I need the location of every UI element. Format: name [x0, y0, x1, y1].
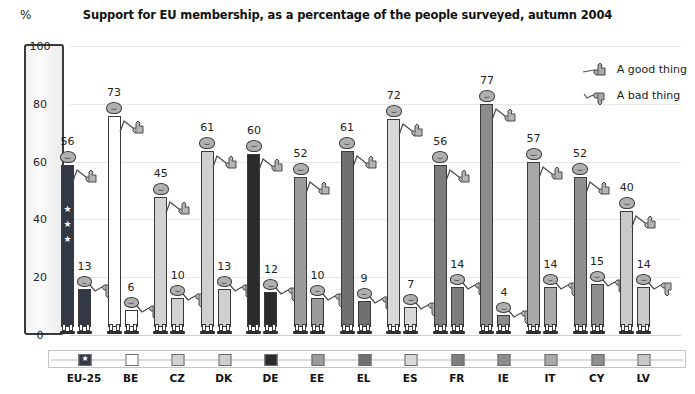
value-label: 72 [387, 89, 401, 102]
figure-head [339, 137, 355, 149]
bad-thing-figure: 14 [544, 272, 557, 334]
figure-leg [359, 324, 363, 331]
figure-foot [346, 331, 355, 334]
value-label: 73 [107, 86, 121, 99]
value-label: 12 [264, 263, 278, 276]
category-label-DK: DK [215, 372, 232, 384]
value-label: 9 [361, 272, 368, 285]
good-thing-figure: 40 [620, 195, 633, 334]
figure-foot [66, 331, 75, 334]
thumbs-up-icon [305, 179, 335, 203]
category-label-EU-25: EU-25 [67, 372, 102, 384]
figure-head [293, 163, 309, 175]
thumbs-up-icon [119, 118, 149, 142]
figure-head [526, 148, 542, 160]
good-thing-figure: 61 [341, 135, 354, 334]
legend-swatch-LV [638, 354, 651, 366]
bar-body [108, 116, 121, 327]
bar-body [247, 154, 260, 327]
figure-leg [265, 324, 269, 331]
figure-leg [435, 324, 439, 331]
chart-title: Support for EU membership, as a percenta… [0, 8, 695, 22]
figure-leg [133, 324, 137, 331]
good-thing-figure: 57 [527, 146, 540, 334]
legend-item-bad[interactable]: A bad thing [581, 82, 687, 108]
figure-head [636, 274, 651, 285]
value-label: 7 [407, 278, 414, 291]
figure-foot [269, 331, 278, 334]
category-label-FR: FR [449, 372, 464, 384]
figure-head [170, 285, 185, 296]
bad-thing-figure: 13 [218, 274, 231, 334]
thumbs-up-icon [538, 164, 568, 188]
thumbs-down-icon [581, 85, 611, 105]
figure-leg [645, 324, 649, 331]
figure-head [619, 197, 635, 209]
figure-leg [592, 324, 596, 331]
value-label: 56 [433, 135, 447, 148]
thumbs-up-icon [212, 153, 242, 177]
bad-thing-figure: 15 [591, 269, 604, 334]
bad-thing-figure: 13 [78, 274, 91, 334]
bad-thing-figure: 6 [125, 295, 138, 334]
thumbs-up-icon [445, 167, 475, 191]
figure-foot [625, 331, 634, 334]
figure-leg [395, 324, 399, 331]
category-label-LV: LV [637, 372, 650, 384]
figure-foot [579, 331, 588, 334]
figure-leg [481, 324, 485, 331]
figure-leg [505, 324, 509, 331]
bad-thing-figure: 10 [311, 283, 324, 334]
bar-body [171, 298, 184, 327]
value-label: 77 [480, 74, 494, 87]
value-label: 14 [450, 258, 464, 271]
thumbs-up-icon [585, 179, 615, 203]
bar-body [637, 287, 650, 327]
figure-leg [498, 324, 502, 331]
bad-thing-figure: 12 [264, 277, 277, 334]
category-label-DE: DE [262, 372, 278, 384]
y-tick-60: 60 [18, 155, 62, 168]
thumbs-up-icon [352, 153, 382, 177]
figure-foot [392, 331, 401, 334]
eu-stars: ★★★ [62, 166, 73, 247]
legend-item-good[interactable]: A good thing [581, 56, 687, 82]
figure-leg [412, 324, 416, 331]
legend-swatch-EL [358, 354, 371, 366]
figure-leg [219, 324, 223, 331]
good-thing-figure: ★★★56 [61, 149, 74, 334]
bar-body [78, 289, 91, 327]
category-label-EE: EE [310, 372, 324, 384]
figure-head [246, 140, 262, 152]
figure-foot [130, 331, 139, 334]
value-label: 14 [544, 258, 558, 271]
figure-leg [126, 324, 130, 331]
good-thing-figure: 52 [574, 161, 587, 334]
bar-body [527, 162, 540, 327]
figure-head [106, 102, 122, 114]
figure-head [124, 297, 139, 308]
figure-foot [159, 331, 168, 334]
figure-leg [599, 324, 603, 331]
figure-head [60, 151, 76, 163]
figure-foot [206, 331, 215, 334]
figure-leg [69, 324, 73, 331]
category-label-IE: IE [498, 372, 509, 384]
legend-swatch-DK [218, 354, 231, 366]
figure-foot [439, 331, 448, 334]
value-label: 60 [247, 124, 261, 137]
figure-head [77, 276, 92, 287]
figure-leg [545, 324, 549, 331]
figure-foot [299, 331, 308, 334]
figure-leg [116, 324, 120, 331]
y-tick-40: 40 [18, 213, 62, 226]
figure-leg [405, 324, 409, 331]
legend-swatch-CY [591, 354, 604, 366]
bar-body [264, 292, 277, 327]
figure-head [217, 276, 232, 287]
value-label: 13 [217, 260, 231, 273]
figure-leg [312, 324, 316, 331]
figure-foot [596, 331, 605, 334]
figure-leg [86, 324, 90, 331]
bad-thing-figure: 4 [497, 300, 510, 334]
